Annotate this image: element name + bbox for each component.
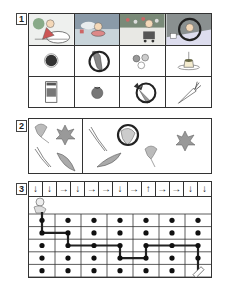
ohagi-icon [29,46,74,76]
arrow-cell: → [156,182,170,196]
ginkgo-leaf-icon [35,124,49,143]
grid-dot [65,218,70,223]
corn-icon [75,46,120,76]
grid-dot [169,243,174,248]
flowers-scene-icon [120,14,165,45]
item-carrot-leaves-circled[interactable] [120,77,166,107]
scene-snowy-house-circled[interactable] [166,14,212,46]
arrow-cell: ↓ [113,182,127,196]
question-2-box [28,118,212,174]
item-dango[interactable] [120,46,166,77]
carrot-leaves-icon [120,77,165,107]
grid-dot [65,268,70,273]
grid-dot [169,256,174,261]
answer-leaves [83,119,211,173]
grid-dot [65,243,70,248]
question-2-label: 2 [16,120,27,132]
arrow-cell: → [57,182,71,196]
grid-dot [195,218,200,223]
carrot-icon [166,77,212,107]
grid-dot [143,218,148,223]
grid-dot [65,230,70,235]
arrow-cell: → [128,182,142,196]
arrow-cell: → [170,182,184,196]
boy-character-icon [34,198,46,213]
grid-dot [195,230,200,235]
grid-dot [143,230,148,235]
grid-dot [39,230,44,235]
item-carrot[interactable] [166,77,212,107]
arrow-cell: ↓ [184,182,198,196]
tomato-icon [75,77,120,107]
pine-needles-icon [35,147,51,167]
grid-dot [143,243,148,248]
grid-dot [39,268,44,273]
dango-icon [120,46,165,76]
item-pudding[interactable] [166,46,212,77]
arrow-cell: → [99,182,113,196]
grid-dot [39,256,44,261]
item-milk-carton[interactable] [29,77,75,107]
grid-dot [39,243,44,248]
arrow-cell: ↓ [71,182,85,196]
arrow-cell: ↓ [198,182,211,196]
milk-carton-icon [29,77,74,107]
arrow-cell: ↓ [43,182,57,196]
question-3-label: 3 [16,183,27,195]
sledding-scene-icon [29,14,74,45]
long-leaf-icon [57,153,75,171]
grid-dot [143,256,148,261]
snowy-house-scene-icon [166,14,212,45]
pine-needles-icon [89,127,107,151]
question-3-grid: ↓ ↓ → ↓ → → ↓ → ↑ → → ↓ ↓ [28,181,212,278]
grid-dot [195,256,200,261]
grid-dot [117,218,122,223]
scene-sledding[interactable] [29,14,75,46]
scene-flowers[interactable] [120,14,166,46]
maple-leaf-icon [56,125,75,145]
grid-dot [169,230,174,235]
question-1-label: 1 [16,13,27,25]
item-ohagi[interactable] [29,46,75,77]
arrow-row: ↓ ↓ → ↓ → → ↓ → ↑ → → ↓ ↓ [29,182,211,197]
question-1-grid [28,13,212,108]
scene-pool[interactable] [75,14,121,46]
item-corn-circled[interactable] [75,46,121,77]
grid-dot [143,268,148,273]
grid-dot [91,243,96,248]
arrow-cell: → [85,182,99,196]
grid-dot [65,256,70,261]
item-tomato[interactable] [75,77,121,107]
round-leaf-icon[interactable] [118,125,138,145]
grid-dot [91,256,96,261]
grid-dot [91,218,96,223]
maple-leaf-icon [176,131,195,151]
grid-dot [117,243,122,248]
dot-grid [29,197,211,277]
grid-dot [117,230,122,235]
grid-dot [169,268,174,273]
grid-dot [117,256,122,261]
long-leaf-icon [97,153,121,167]
grid-dot [91,268,96,273]
arrow-cell: ↓ [29,182,43,196]
pool-scene-icon [75,14,120,45]
pudding-icon [166,46,212,76]
grid-dot [117,268,122,273]
grid-dot [169,218,174,223]
arrow-cell: ↑ [142,182,156,196]
grid-dot [39,218,44,223]
grid-dot [195,243,200,248]
ginkgo-leaf-icon [145,146,157,167]
grid-dot [91,230,96,235]
reference-leaves [29,119,82,173]
